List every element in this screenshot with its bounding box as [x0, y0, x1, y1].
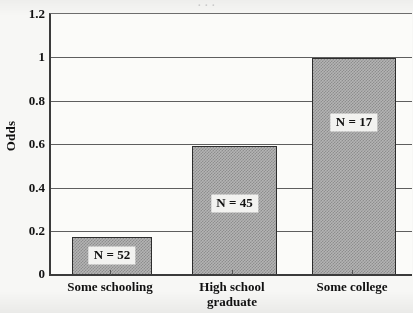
x-label-high-school-graduate: High school graduate [167, 279, 297, 309]
x-label-high-school-graduate-line1: High school [167, 279, 297, 294]
y-tick-label-1-0: 1 [3, 50, 45, 63]
x-label-some-college-line1: Some college [288, 279, 413, 294]
x-label-some-college: Some college [288, 279, 413, 294]
y-tick-label-0-2: 0.2 [3, 224, 45, 237]
y-tick-label-1-2: 1.2 [3, 7, 45, 20]
x-tick-high-school-graduate [232, 270, 233, 275]
y-tick-label-0-4: 0.4 [3, 181, 45, 194]
bar-label-some-college: N = 17 [331, 114, 377, 131]
x-label-high-school-graduate-line2: graduate [167, 294, 297, 309]
x-label-some-schooling: Some schooling [42, 279, 178, 294]
bar-label-high-school-graduate: N = 45 [211, 195, 257, 212]
bar-label-some-schooling: N = 52 [89, 247, 135, 264]
plot-area: N = 52 N = 45 N = 17 [49, 13, 412, 275]
y-tick-label-0: 0 [3, 267, 45, 280]
x-tick-some-schooling [110, 270, 111, 275]
bar-some-college[interactable]: N = 17 [312, 58, 396, 275]
x-axis-line [49, 274, 412, 276]
y-axis-title: Odds [3, 106, 19, 166]
bar-some-schooling[interactable]: N = 52 [72, 237, 152, 275]
x-label-some-schooling-line1: Some schooling [42, 279, 178, 294]
x-tick-some-college [352, 270, 353, 275]
bar-chart-figure: · · · 1.2 1 0.8 0.6 0.4 0.2 0 Odds N = 5… [0, 0, 413, 313]
cropped-title-remnant: · · · [0, 0, 413, 7]
bar-high-school-graduate[interactable]: N = 45 [192, 146, 277, 275]
